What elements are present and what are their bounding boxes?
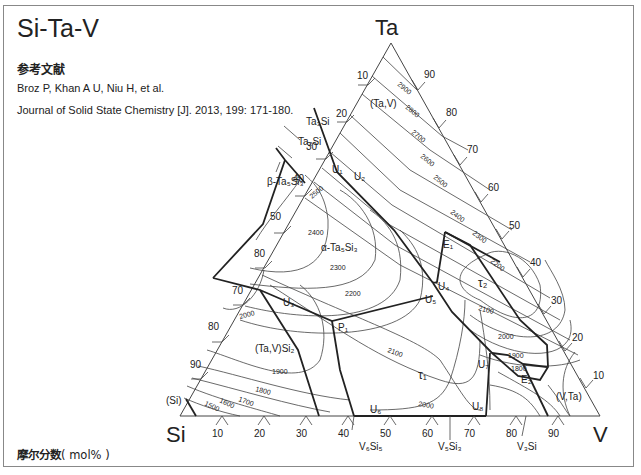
bottom-tick-90: 90 <box>548 428 560 439</box>
invariant-points: U₁ U₂ U₃ U₄ U₅ U₆ U₇ U₈ E₁ E₂ P₁ <box>283 164 532 415</box>
right-tick-50: 50 <box>509 220 521 231</box>
iso-1900: 1900 <box>508 352 524 359</box>
iso-2400b: 2400 <box>308 229 324 236</box>
corner-si: Si <box>166 422 186 447</box>
iso-2400: 2400 <box>449 208 466 223</box>
right-tick-10: 10 <box>593 370 605 381</box>
iso-2500: 2500 <box>432 173 449 188</box>
iso-2000c: 2000 <box>238 309 255 320</box>
iso-2300: 2300 <box>471 229 488 244</box>
phase-alpha-ta5si3: α-Ta₅Si₃ <box>321 242 358 253</box>
bottom-axis-labels: 10 20 30 40 50 60 70 80 90 <box>212 428 560 439</box>
bottom-tick-50: 50 <box>380 428 392 439</box>
phase-tau1: τ₁ <box>418 368 427 382</box>
bottom-tick-80: 80 <box>506 428 518 439</box>
iso-2200: 2200 <box>489 257 506 272</box>
left-tick-90: 90 <box>190 359 202 370</box>
bottom-tick-70: 70 <box>464 428 476 439</box>
right-tick-60: 60 <box>488 182 500 193</box>
left-tick-10: 10 <box>357 70 369 81</box>
right-tick-30: 30 <box>551 295 563 306</box>
bottom-tick-60: 60 <box>422 428 434 439</box>
iso-1800: 1800 <box>511 365 527 372</box>
iso-2900: 2900 <box>396 80 413 95</box>
iso-2600: 2600 <box>419 152 436 167</box>
tick-marks <box>191 78 593 425</box>
left-tick-80: 80 <box>208 321 220 332</box>
right-tick-20: 20 <box>572 332 584 343</box>
right-tick-80: 80 <box>446 107 458 118</box>
phase-v-ta: (V,Ta) <box>556 391 582 402</box>
right-tick-40: 40 <box>530 257 542 268</box>
right-tick-70: 70 <box>467 144 479 155</box>
bottom-tick-20: 20 <box>254 428 266 439</box>
phase-v3si: V₃Si <box>517 441 537 452</box>
point-u5: U₅ <box>425 294 436 305</box>
point-u3: U₃ <box>283 297 294 308</box>
iso-1800b: 1800 <box>255 385 272 396</box>
point-p1: P₁ <box>338 322 349 333</box>
bottom-tick-40: 40 <box>338 428 350 439</box>
iso-2800: 2800 <box>404 103 421 118</box>
phase-ta2si: Ta₂Si <box>298 136 321 147</box>
phase-ta-v: (Ta,V) <box>370 98 397 109</box>
point-e2: E₂ <box>521 374 532 385</box>
iso-2000b: 2000 <box>498 333 514 340</box>
left-tick-60: 80 <box>254 248 266 259</box>
left-tick-20: 20 <box>336 108 348 119</box>
right-axis-labels: 90 80 70 60 50 40 30 20 10 <box>424 69 605 381</box>
iso-2100: 2100 <box>387 346 404 358</box>
point-u1: U₁ <box>332 164 343 175</box>
point-u6: U₆ <box>370 404 381 415</box>
iso-1900b: 1900 <box>272 368 288 375</box>
iso-2200b: 2200 <box>345 290 361 297</box>
phase-si: (Si) <box>166 395 182 406</box>
iso-2300b: 2300 <box>330 264 346 271</box>
iso-1700: 1700 <box>238 395 255 407</box>
iso-1600: 1600 <box>219 397 236 410</box>
point-u8: U₈ <box>472 401 483 412</box>
point-u4: U₄ <box>438 281 449 292</box>
phase-v6si5: V₆Si₅ <box>359 441 383 452</box>
phase-tau2: τ₂ <box>478 276 488 290</box>
phase-ta3si: Ta₃Si <box>306 116 330 127</box>
bottom-tick-30: 30 <box>296 428 308 439</box>
point-u7: U₇ <box>478 359 489 370</box>
right-tick-90: 90 <box>424 69 436 80</box>
point-e1: E₁ <box>443 239 454 250</box>
phase-beta-ta5si3: β-Ta₅Si₃ <box>267 176 304 187</box>
ternary-diagram: Ta Si V 10 20 30 40 50 80 70 80 90 90 80… <box>0 0 641 475</box>
bottom-tick-10: 10 <box>212 428 224 439</box>
phase-v5si3: V₅Si₃ <box>438 441 462 452</box>
corner-v: V <box>593 422 608 447</box>
left-tick-70: 70 <box>232 285 244 296</box>
iso-2000: 2000 <box>418 400 435 410</box>
phase-tavsi2: (Ta,V)Si₂ <box>255 343 295 354</box>
corner-ta: Ta <box>375 15 399 40</box>
point-u2: U₂ <box>354 171 365 182</box>
left-tick-50: 50 <box>270 211 282 222</box>
